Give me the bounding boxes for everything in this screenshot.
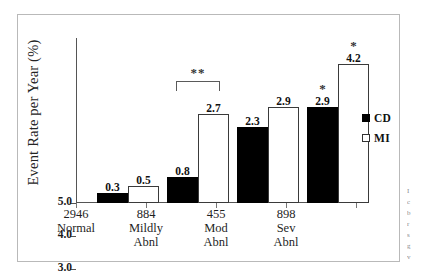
cropped-caption-line-5: g	[407, 241, 420, 252]
cropped-edge-caption: I c b r s g v	[407, 186, 420, 263]
significance-star-cd-sev-abnl: *	[319, 84, 326, 93]
chart-legend: CD MI	[362, 112, 408, 152]
legend-label-cd: CD	[374, 112, 391, 124]
x-category-label-sev-abnl: 898 Sev Abnl	[251, 207, 321, 249]
bar-value-label-mi-mildly-abnl: 2.7	[206, 102, 220, 114]
bar-cd-normal[interactable]: 0.3	[97, 193, 128, 203]
x-category-name-mildly-abnl: Mildly	[111, 221, 181, 235]
bar-mi-mildly-abnl[interactable]: 2.7	[198, 114, 229, 203]
cropped-caption-line-4: s	[407, 230, 420, 241]
bar-cd-mildly-abnl[interactable]: 0.8	[167, 177, 198, 203]
cropped-caption-line-2: b	[407, 208, 420, 219]
plot-area: 0.0 1.0 2.0 3.0 4.0 5.0 0.3 0.5 0.8	[76, 38, 347, 203]
significance-star-mi-sev-abnl: *	[350, 41, 357, 50]
bar-value-label-mi-sev-abnl: 4.2	[346, 52, 360, 64]
x-category-label-normal: 2946 Normal	[41, 207, 111, 235]
x-category-name2-sev-abnl: Abnl	[251, 235, 321, 249]
bar-value-label-cd-mildly-abnl: 0.8	[175, 165, 189, 177]
x-category-name2-mod-abnl: Abnl	[181, 235, 251, 249]
legend-swatch-filled-square-icon	[362, 114, 370, 122]
legend-item-cd[interactable]: CD	[362, 112, 408, 123]
bar-value-label-cd-sev-abnl: 2.9	[315, 95, 329, 107]
bar-cd-sev-abnl[interactable]: 2.9 *	[307, 107, 338, 203]
cropped-caption-line-0: I	[407, 186, 420, 197]
x-category-count-mod-abnl: 455	[181, 207, 251, 221]
figure-container: Event Rate per Year (%) 0.0 1.0 2.0 3.0 …	[0, 0, 421, 278]
bar-cd-mod-abnl[interactable]: 2.3	[237, 127, 268, 203]
bar-mi-mod-abnl[interactable]: 2.9	[268, 107, 299, 203]
legend-label-mi: MI	[374, 132, 390, 144]
bar-value-label-cd-normal: 0.3	[105, 181, 119, 193]
legend-swatch-open-square-icon	[362, 134, 370, 142]
x-category-label-mildly-abnl: 884 Mildly Abnl	[111, 207, 181, 249]
legend-item-mi[interactable]: MI	[362, 132, 408, 143]
bar-mi-normal[interactable]: 0.5	[128, 186, 159, 203]
bar-value-label-mi-mod-abnl: 2.9	[276, 95, 290, 107]
cropped-caption-line-1: c	[407, 197, 420, 208]
x-category-count-mildly-abnl: 884	[111, 207, 181, 221]
significance-label-mildly-abnl: **	[191, 65, 206, 81]
x-category-label-mod-abnl: 455 Mod Abnl	[181, 207, 251, 249]
x-category-name2-mildly-abnl: Abnl	[111, 235, 181, 249]
x-category-name-mod-abnl: Mod	[181, 221, 251, 235]
y-tick-label-5: 5.0	[58, 195, 72, 207]
x-tick-mark-4	[356, 203, 357, 208]
cropped-caption-line-6: v	[407, 252, 420, 263]
bar-value-label-mi-normal: 0.5	[136, 174, 150, 186]
x-category-name-normal: Normal	[41, 221, 111, 235]
y-tick-label-3: 3.0	[58, 261, 72, 273]
x-category-count-sev-abnl: 898	[251, 207, 321, 221]
x-category-count-normal: 2946	[41, 207, 111, 221]
bar-value-label-cd-mod-abnl: 2.3	[245, 115, 259, 127]
x-category-name-sev-abnl: Sev	[251, 221, 321, 235]
cropped-caption-line-3: r	[407, 219, 420, 230]
y-axis-line	[76, 38, 77, 203]
significance-bracket-mildly-abnl: **	[176, 81, 220, 91]
y-axis-title: Event Rate per Year (%)	[25, 28, 42, 198]
